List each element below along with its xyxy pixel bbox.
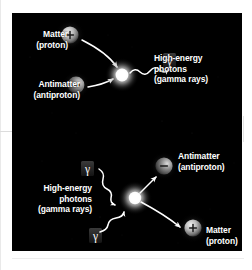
label-antimatter-bottom: Antimatter (antiproton) xyxy=(178,151,242,172)
label-photons-top-line3: (gamma rays) xyxy=(154,74,242,85)
label-antimatter-bottom-line1: Antimatter xyxy=(178,151,242,162)
label-antimatter-bottom-line2: (antiproton) xyxy=(178,162,242,173)
label-photons-top-line1: High-energy xyxy=(154,53,242,64)
margin-rule-bottom xyxy=(12,258,244,259)
antiproton-sphere-bottom xyxy=(150,152,178,180)
gamma-symbol-bottom-lower: γ xyxy=(89,228,102,243)
label-photons-bottom: High-energy photons (gamma rays) xyxy=(14,183,92,215)
margin-rule-right xyxy=(243,116,244,142)
label-photons-bottom-line2: photons xyxy=(14,194,92,205)
label-photons-top-line2: photons xyxy=(154,64,242,75)
annihilation-point xyxy=(105,58,139,92)
label-matter-top-line1: Matter xyxy=(12,29,68,40)
label-antimatter-top-line1: Antimatter xyxy=(12,79,80,90)
gamma-symbol-bottom-upper: γ xyxy=(81,161,94,176)
label-photons-top: High-energy photons (gamma rays) xyxy=(154,53,242,85)
physics-figure-panel: γ γ γ xyxy=(12,13,242,251)
label-matter-bottom-line2: (proton) xyxy=(206,236,242,247)
label-photons-bottom-line1: High-energy xyxy=(14,183,92,194)
figure-page: γ γ γ xyxy=(0,0,252,270)
label-antimatter-top-line2: (antiproton) xyxy=(12,90,80,101)
svg-text:γ: γ xyxy=(92,230,98,243)
margin-rule-left xyxy=(0,0,1,270)
label-photons-bottom-line3: (gamma rays) xyxy=(14,204,92,215)
label-matter-bottom: Matter (proton) xyxy=(206,225,242,246)
svg-text:γ: γ xyxy=(84,163,90,176)
label-matter-top-line2: (proton) xyxy=(12,40,68,51)
label-matter-top: Matter (proton) xyxy=(12,29,68,50)
label-matter-bottom-line1: Matter xyxy=(206,225,242,236)
proton-sphere-bottom xyxy=(178,213,208,243)
label-antimatter-top: Antimatter (antiproton) xyxy=(12,79,80,100)
